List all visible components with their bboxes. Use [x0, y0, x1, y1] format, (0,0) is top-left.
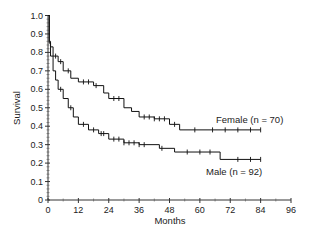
- x-tick-label: 0: [45, 205, 50, 215]
- y-tick-label: 1.0: [30, 11, 43, 21]
- axes: 00.10.20.30.40.50.60.70.80.91.0012243648…: [30, 11, 296, 216]
- legend-female: Female (n = 70): [216, 114, 283, 125]
- x-tick-label: 96: [286, 205, 296, 215]
- y-tick-label: 0.8: [30, 47, 43, 57]
- y-tick-label: 0: [38, 195, 43, 205]
- y-tick-label: 0.2: [30, 158, 43, 168]
- male-curve: [48, 16, 261, 160]
- y-axis-title: Survival: [11, 91, 22, 125]
- survival-chart: 00.10.20.30.40.50.60.70.80.91.0012243648…: [0, 0, 313, 244]
- y-tick-label: 0.3: [30, 140, 43, 150]
- survival-curves: [48, 16, 261, 162]
- y-tick-label: 0.4: [30, 121, 43, 131]
- x-tick-label: 60: [195, 205, 205, 215]
- y-tick-label: 0.5: [30, 103, 43, 113]
- x-tick-label: 72: [225, 205, 235, 215]
- x-tick-label: 84: [256, 205, 266, 215]
- y-tick-label: 0.7: [30, 66, 43, 76]
- female-curve: [48, 16, 261, 130]
- x-tick-label: 24: [104, 205, 114, 215]
- x-axis-title: Months: [154, 215, 185, 226]
- y-tick-label: 0.9: [30, 29, 43, 39]
- x-tick-label: 48: [164, 205, 174, 215]
- y-tick-label: 0.6: [30, 84, 43, 94]
- x-tick-label: 12: [73, 205, 83, 215]
- x-tick-label: 36: [134, 205, 144, 215]
- y-tick-label: 0.1: [30, 177, 43, 187]
- legend-male: Male (n = 92): [206, 166, 262, 177]
